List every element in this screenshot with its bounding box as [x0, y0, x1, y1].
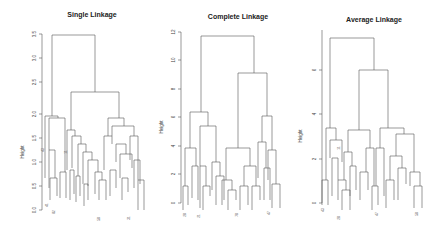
- leaf-label: 47: [375, 212, 379, 216]
- leaf-label: 11: [64, 150, 68, 154]
- leaf-label: 82: [52, 210, 56, 214]
- y-tick-label: 4: [171, 144, 176, 147]
- y-tick-label: 0.5: [32, 182, 37, 189]
- leaf-label: 47: [267, 211, 271, 215]
- complete-linkage-title: Complete Linkage: [208, 13, 268, 21]
- complete-linkage-panel: Complete Linkage Height 024681012 282178…: [159, 13, 280, 218]
- single-linkage-ylabel: Height: [20, 145, 25, 159]
- single-linkage-panel: Single Linkage Height 0.00.51.01.52.02.5…: [20, 11, 144, 221]
- complete-linkage-y-axis: 024681012: [171, 29, 181, 204]
- leaf-label: 58: [415, 212, 419, 216]
- leaf-label: 78: [235, 213, 239, 217]
- y-tick-label: 2: [312, 157, 317, 160]
- y-tick-label: 0: [171, 201, 176, 204]
- y-tick-label: 8: [171, 87, 176, 90]
- leaf-label: 43: [41, 148, 45, 152]
- complete-linkage-leaf-labels: 28217847: [183, 211, 271, 218]
- y-tick-label: 0: [312, 201, 317, 204]
- average-linkage-ylabel: Height: [298, 129, 303, 143]
- leaf-label: 11: [337, 146, 341, 150]
- y-tick-label: 6: [171, 115, 176, 118]
- single-linkage-y-axis: 0.00.51.01.52.02.53.03.5: [32, 30, 42, 213]
- y-tick-label: 3.5: [32, 30, 37, 37]
- single-linkage-dendrogram: [45, 35, 144, 210]
- leaf-label: 58: [97, 217, 101, 221]
- leaf-label: 28: [337, 216, 341, 220]
- y-tick-label: 1.0: [32, 158, 37, 165]
- average-linkage-leaf-labels: 4311284758: [321, 146, 419, 220]
- y-tick-label: 4: [312, 112, 317, 115]
- leaf-label: 28: [183, 213, 187, 217]
- leaf-label: 31: [127, 216, 131, 220]
- leaf-label: 43: [321, 208, 325, 212]
- leaf-label: 21: [197, 214, 201, 218]
- complete-linkage-dendrogram: [183, 36, 280, 210]
- y-tick-label: 3.0: [32, 54, 37, 61]
- y-tick-label: 2.5: [32, 78, 37, 85]
- y-tick-label: 10: [171, 57, 176, 63]
- y-tick-label: 0.0: [32, 206, 37, 213]
- complete-linkage-ylabel: Height: [159, 120, 164, 134]
- single-linkage-leaf-labels: 431141825831: [41, 148, 131, 221]
- y-tick-label: 1.5: [32, 134, 37, 141]
- dendrogram-figure: Single Linkage Height 0.00.51.01.52.02.5…: [0, 0, 434, 239]
- y-tick-label: 6: [312, 68, 317, 71]
- y-tick-label: 2: [171, 172, 176, 175]
- average-linkage-panel: Average Linkage Height 0246 4311284758: [298, 16, 422, 220]
- average-linkage-title: Average Linkage: [346, 16, 402, 24]
- leaf-label: 41: [45, 203, 49, 207]
- average-linkage-dendrogram: [322, 38, 422, 210]
- average-linkage-y-axis: 0246: [312, 30, 322, 204]
- single-linkage-title: Single Linkage: [67, 11, 117, 19]
- y-tick-label: 2.0: [32, 110, 37, 117]
- y-tick-label: 12: [171, 29, 176, 35]
